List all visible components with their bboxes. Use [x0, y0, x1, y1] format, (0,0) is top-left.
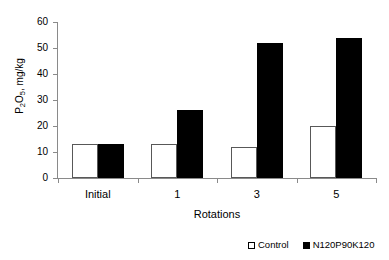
plot-area [58, 22, 376, 178]
bar-control-5 [310, 126, 336, 178]
legend-label-n120p90k120: N120P90K120 [313, 240, 375, 250]
x-category-label-5: 5 [296, 188, 376, 200]
y-tick-label-50: 50 [8, 43, 48, 53]
legend-swatch-solid-square-icon [303, 242, 310, 249]
x-tick-2 [217, 178, 218, 183]
x-category-label-1: 1 [137, 188, 217, 200]
bar-n120p90k120-1 [177, 110, 203, 178]
x-tick-4 [376, 178, 377, 183]
legend-item-n120p90k120[interactable]: N120P90K120 [303, 240, 375, 250]
y-tick-label-40: 40 [8, 69, 48, 79]
legend-swatch-hollow-square-icon [248, 242, 255, 249]
x-axis-title: Rotations [58, 208, 376, 220]
y-tick-label-10: 10 [8, 147, 48, 157]
bar-chart: P2O5, mg/kg 0102030405060 Initial135 Rot… [0, 0, 389, 260]
y-axis-title-text: P2O5, mg/kg [14, 58, 25, 114]
x-tick-1 [138, 178, 139, 183]
x-tick-0 [58, 178, 59, 183]
bar-n120p90k120-3 [257, 43, 283, 178]
y-tick-label-30: 30 [8, 95, 48, 105]
x-tick-3 [297, 178, 298, 183]
bar-n120p90k120-5 [336, 38, 362, 178]
y-tick-label-20: 20 [8, 121, 48, 131]
x-category-label-initial: Initial [58, 188, 138, 200]
y-tick-label-0: 0 [8, 173, 48, 183]
bar-n120p90k120-initial [98, 144, 124, 178]
legend-label-control: Control [258, 240, 289, 250]
legend-item-control[interactable]: Control [248, 240, 289, 250]
y-tick-label-60: 60 [8, 17, 48, 27]
bar-control-3 [231, 147, 257, 178]
bar-control-initial [72, 144, 98, 178]
bar-control-1 [151, 144, 177, 178]
x-category-label-3: 3 [217, 188, 297, 200]
chart-legend: Control N120P90K120 [248, 240, 374, 250]
